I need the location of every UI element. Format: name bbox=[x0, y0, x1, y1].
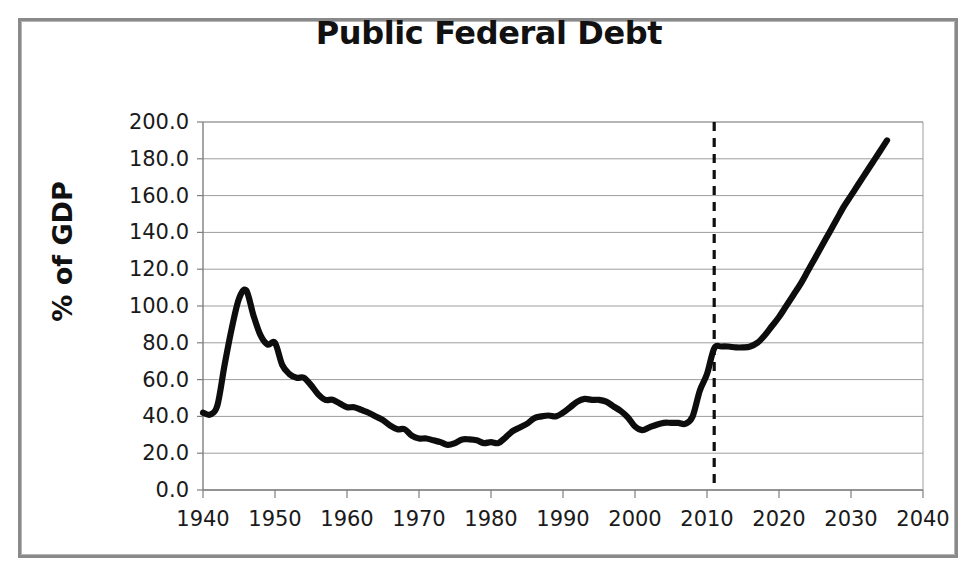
x-axis-tick-labels: 1940195019601970198019902000201020202030… bbox=[176, 507, 949, 531]
y-tick-label: 0.0 bbox=[156, 478, 189, 502]
x-tick-label: 2030 bbox=[824, 507, 877, 531]
x-tick-label: 1990 bbox=[536, 507, 589, 531]
x-tick-label: 2040 bbox=[896, 507, 949, 531]
y-tick-label: 20.0 bbox=[142, 441, 189, 465]
x-tick-label: 2010 bbox=[680, 507, 733, 531]
y-tick-label: 80.0 bbox=[142, 331, 189, 355]
x-axis-ticks bbox=[203, 490, 923, 498]
y-tick-label: 40.0 bbox=[142, 404, 189, 428]
x-tick-label: 2000 bbox=[608, 507, 661, 531]
y-tick-label: 100.0 bbox=[129, 294, 189, 318]
x-tick-label: 1940 bbox=[176, 507, 229, 531]
x-tick-label: 1950 bbox=[248, 507, 301, 531]
x-tick-label: 1960 bbox=[320, 507, 373, 531]
x-tick-label: 2020 bbox=[752, 507, 805, 531]
data-series-line-0 bbox=[203, 140, 887, 445]
y-tick-label: 120.0 bbox=[129, 257, 189, 281]
y-tick-label: 160.0 bbox=[129, 184, 189, 208]
chart-plot-area: 0.020.040.060.080.0100.0120.0140.0160.01… bbox=[0, 0, 978, 577]
chart-figure: Public Federal Debt % of GDP 0.020.040.0… bbox=[0, 0, 978, 577]
x-tick-label: 1980 bbox=[464, 507, 517, 531]
y-tick-label: 140.0 bbox=[129, 220, 189, 244]
gridlines-group bbox=[203, 122, 923, 490]
y-axis-ticks bbox=[197, 122, 203, 490]
y-tick-label: 60.0 bbox=[142, 368, 189, 392]
y-axis-tick-labels: 0.020.040.060.080.0100.0120.0140.0160.01… bbox=[129, 110, 189, 502]
y-tick-label: 180.0 bbox=[129, 147, 189, 171]
y-tick-label: 200.0 bbox=[129, 110, 189, 134]
data-series-group bbox=[203, 140, 887, 445]
x-tick-label: 1970 bbox=[392, 507, 445, 531]
